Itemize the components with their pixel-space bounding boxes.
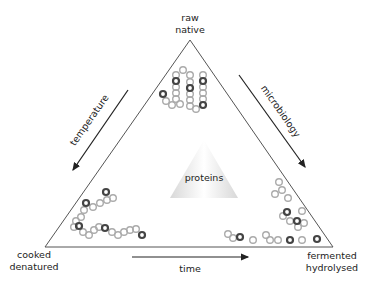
vertex-top-line2: native	[175, 24, 205, 35]
protein-triangle-diagram: proteins raw native cooked denatured fer…	[0, 0, 368, 289]
vertex-top-line1: raw	[181, 12, 199, 23]
proteins-label: proteins	[185, 172, 224, 183]
time-label: time	[179, 263, 201, 274]
triangle-outline	[45, 40, 333, 247]
vertex-br-line2: hydrolysed	[306, 262, 358, 273]
vertex-br-line1: fermented	[307, 250, 357, 261]
temperature-label: temperature	[68, 92, 111, 147]
proteins-pyramid	[170, 140, 238, 198]
denatured-protein-beads	[71, 189, 145, 238]
vertex-bl-line1: cooked	[17, 249, 51, 260]
vertex-bl-line2: denatured	[9, 261, 58, 272]
hydrolysed-fragment-beads	[225, 179, 320, 244]
